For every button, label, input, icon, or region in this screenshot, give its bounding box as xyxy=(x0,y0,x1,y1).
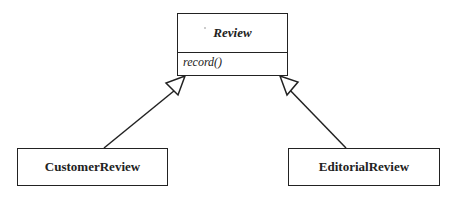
customer-review-generalization-line xyxy=(104,86,180,148)
class-name: Review xyxy=(213,25,251,41)
class-name: EditorialReview xyxy=(319,159,409,175)
class-editorial-review[interactable]: EditorialReview xyxy=(288,148,440,186)
class-review[interactable]: Review record() xyxy=(177,13,288,76)
hollow-triangle-arrowhead-icon xyxy=(280,76,298,95)
editorial-review-generalization-line xyxy=(286,86,346,148)
class-customer-review[interactable]: CustomerReview xyxy=(17,148,168,186)
decorative-dot xyxy=(204,27,206,29)
class-operations: record() xyxy=(178,53,287,72)
hollow-triangle-arrowhead-icon xyxy=(166,76,185,95)
class-name: CustomerReview xyxy=(45,159,140,175)
class-review-header: Review xyxy=(178,14,287,53)
operation: record() xyxy=(183,55,222,69)
